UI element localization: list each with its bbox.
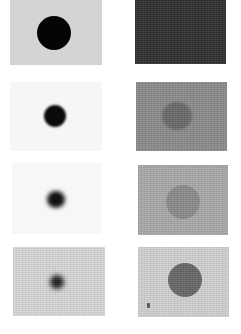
panel-r1-left	[10, 0, 102, 65]
panel-r2-left	[10, 82, 102, 151]
panel-r1-right	[135, 0, 226, 64]
gray-spot	[162, 102, 192, 130]
artifact-mark	[147, 303, 150, 308]
panel-r3-left	[12, 163, 102, 234]
panel-r4-left	[13, 247, 105, 316]
dark-spot	[44, 105, 66, 127]
panel-r2-right	[136, 82, 227, 151]
panel-r4-right	[138, 247, 229, 317]
dark-spot	[50, 275, 64, 289]
dark-spot	[37, 16, 71, 50]
gray-spot	[166, 185, 200, 219]
gray-spot	[168, 263, 202, 297]
panel-r3-right	[138, 165, 228, 235]
dark-spot	[47, 191, 65, 208]
